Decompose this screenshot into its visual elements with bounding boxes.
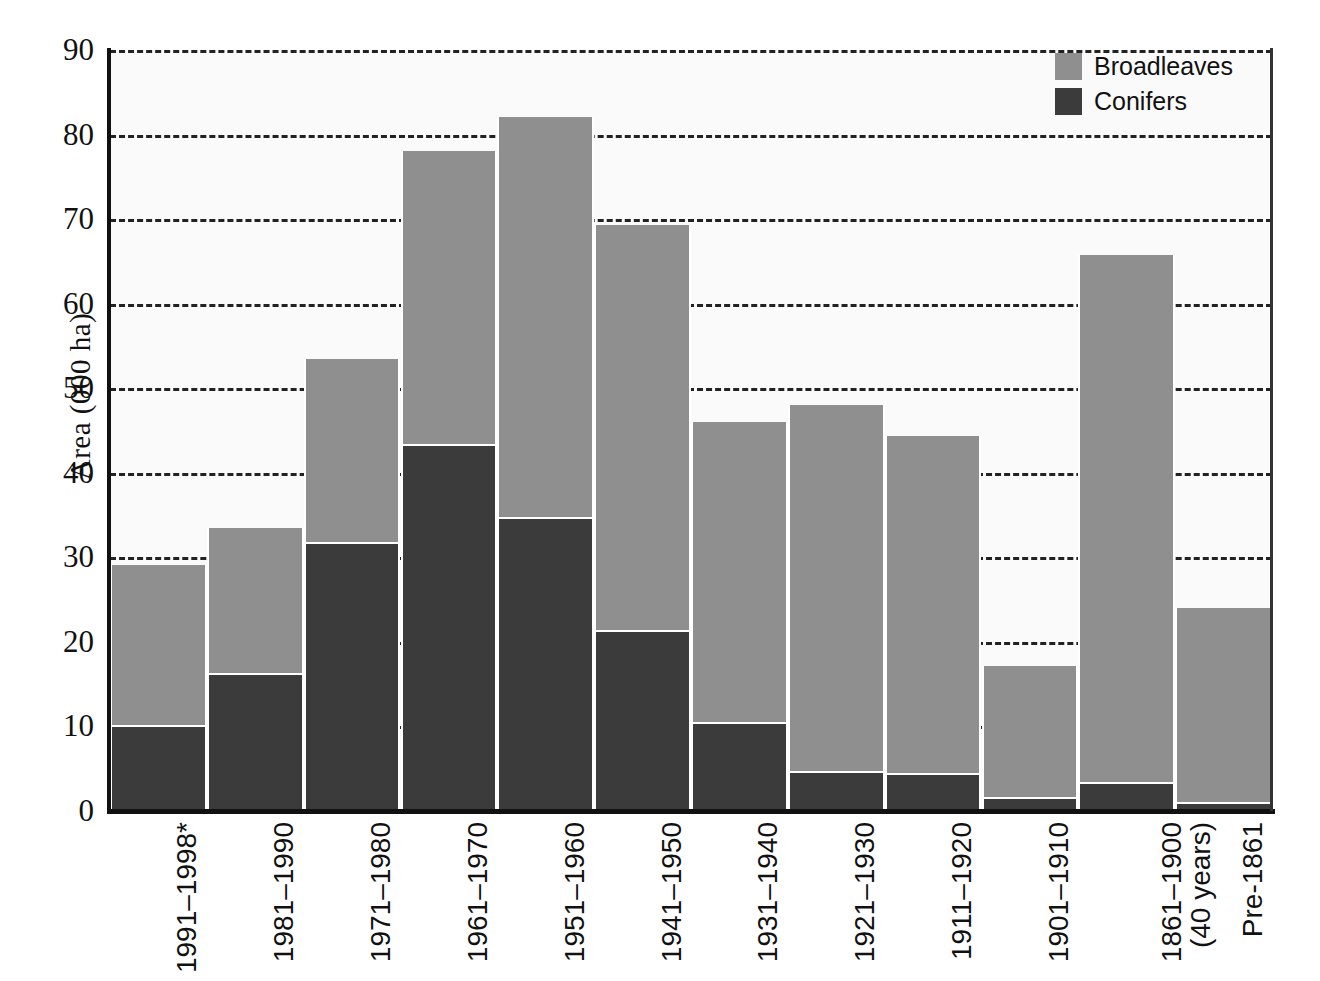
y-tick-label: 20 — [4, 624, 94, 660]
legend: BroadleavesConifers — [1055, 52, 1233, 116]
legend-label: Conifers — [1094, 87, 1187, 116]
bar-stack[interactable] — [691, 422, 788, 811]
x-tick-label: 1951–1960 — [560, 822, 589, 981]
y-tick-label: 30 — [4, 539, 94, 575]
bar-segment-conifers[interactable] — [790, 771, 883, 811]
legend-label: Broadleaves — [1094, 52, 1233, 81]
bar-segment-conifers[interactable] — [403, 444, 496, 811]
bar-segment-broadleaves[interactable] — [1177, 608, 1270, 802]
x-tick-label: 1921–1930 — [850, 822, 879, 981]
chart-root: Area (000 ha) 9080706050403020100 Broadl… — [0, 0, 1320, 981]
bar-stack[interactable] — [594, 225, 691, 811]
y-tick-label: 0 — [4, 793, 94, 829]
bar-segment-broadleaves[interactable] — [403, 151, 496, 444]
bar-segment-broadleaves[interactable] — [596, 225, 689, 630]
plot-right-border — [1270, 48, 1273, 811]
bar-stack[interactable] — [885, 436, 982, 811]
bar-stack[interactable] — [497, 117, 594, 811]
bar-segment-broadleaves[interactable] — [790, 405, 883, 771]
bar-segment-conifers[interactable] — [596, 630, 689, 811]
x-tick-label: 1941–1950 — [657, 822, 686, 981]
y-tick-label: 90 — [4, 32, 94, 68]
legend-swatch-icon — [1055, 53, 1082, 80]
bar-segment-broadleaves[interactable] — [112, 565, 205, 725]
legend-item[interactable]: Broadleaves — [1055, 52, 1233, 81]
y-tick-label: 80 — [4, 117, 94, 153]
gridline-80 — [110, 135, 1272, 138]
bar-segment-conifers[interactable] — [112, 725, 205, 811]
bar-segment-broadleaves[interactable] — [499, 117, 592, 517]
bar-segment-broadleaves[interactable] — [209, 528, 302, 673]
bar-segment-conifers[interactable] — [306, 542, 399, 811]
plot-area — [110, 50, 1272, 811]
bar-segment-conifers[interactable] — [499, 517, 592, 811]
bar-segment-conifers[interactable] — [209, 673, 302, 811]
bar-stack[interactable] — [401, 151, 498, 811]
x-axis-line — [107, 809, 1275, 814]
x-tick-label: 1981–1990 — [269, 822, 298, 981]
legend-swatch-icon — [1055, 88, 1082, 115]
bar-stack[interactable] — [110, 565, 207, 811]
bar-segment-conifers[interactable] — [887, 773, 980, 811]
x-tick-label: 1961–1970 — [463, 822, 492, 981]
x-tick-label: Pre-1861 — [1238, 822, 1267, 981]
x-tick-label: 1991–1998* — [172, 822, 201, 981]
x-tick-label: 1931–1940 — [753, 822, 782, 981]
bar-segment-broadleaves[interactable] — [984, 666, 1077, 797]
bar-segment-broadleaves[interactable] — [1080, 255, 1173, 782]
y-tick-label: 60 — [4, 286, 94, 322]
x-tick-label: 1971–1980 — [366, 822, 395, 981]
bar-segment-conifers[interactable] — [693, 722, 786, 811]
bar-stack[interactable] — [1078, 255, 1175, 811]
x-tick-label: 1911–1920 — [947, 822, 976, 981]
y-tick-label: 10 — [4, 708, 94, 744]
bar-segment-broadleaves[interactable] — [887, 436, 980, 773]
bar-stack[interactable] — [1175, 608, 1272, 811]
bar-segment-conifers[interactable] — [1080, 782, 1173, 811]
bar-stack[interactable] — [982, 666, 1079, 811]
legend-item[interactable]: Conifers — [1055, 87, 1233, 116]
y-tick-label: 50 — [4, 370, 94, 406]
bar-stack[interactable] — [788, 405, 885, 811]
y-tick-label: 40 — [4, 455, 94, 491]
y-tick-label: 70 — [4, 201, 94, 237]
bar-stack[interactable] — [207, 528, 304, 811]
gridline-70 — [110, 219, 1272, 222]
x-tick-label: 1901–1910 — [1044, 822, 1073, 981]
bar-stack[interactable] — [304, 359, 401, 811]
y-axis-line — [107, 48, 111, 813]
bar-segment-broadleaves[interactable] — [306, 359, 399, 543]
x-tick-label: 1861–1900(40 years) — [1157, 822, 1216, 981]
bar-segment-broadleaves[interactable] — [693, 422, 786, 721]
